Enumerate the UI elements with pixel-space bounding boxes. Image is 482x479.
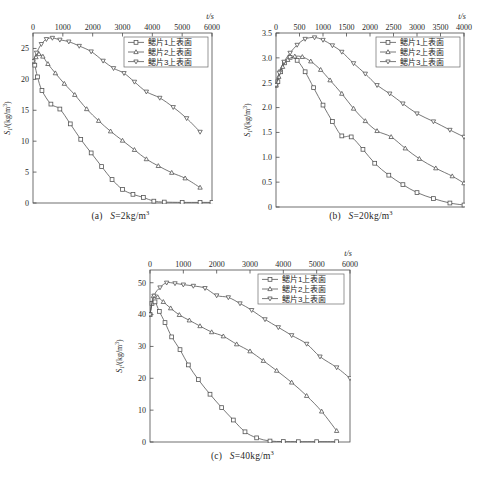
y-tick-label: 25 bbox=[21, 44, 29, 53]
x-tick-label: 3000 bbox=[242, 260, 258, 269]
y-tick-label: 10 bbox=[138, 406, 146, 415]
series-marker bbox=[450, 174, 454, 178]
y-tick-label: 1.0 bbox=[262, 153, 272, 162]
series-marker bbox=[281, 440, 285, 444]
y-axis-title-unit-end: ) bbox=[243, 103, 252, 106]
x-tick-label: 6000 bbox=[204, 23, 220, 32]
y-tick-label: 1.5 bbox=[262, 128, 272, 137]
legend-label: 鳃片2上表面 bbox=[400, 47, 444, 57]
x-tick-label: 0 bbox=[31, 23, 35, 32]
series-marker bbox=[448, 201, 452, 205]
series-marker bbox=[50, 36, 54, 40]
series-marker bbox=[187, 318, 191, 322]
series-marker bbox=[67, 40, 71, 44]
series-marker bbox=[303, 37, 307, 41]
x-tick-label: 5000 bbox=[309, 260, 325, 269]
y-tick-label: 2.0 bbox=[262, 103, 272, 112]
series-line bbox=[33, 62, 212, 202]
series-marker bbox=[231, 418, 235, 422]
series-2 bbox=[148, 294, 339, 433]
legend-label: 鳃片1上表面 bbox=[400, 37, 444, 47]
series-marker bbox=[157, 310, 161, 314]
series-marker bbox=[401, 102, 405, 106]
legend-sample-marker bbox=[134, 41, 138, 45]
series-marker bbox=[214, 294, 218, 298]
series-marker bbox=[434, 166, 438, 170]
y-axis-title: S1/(kg/m3) bbox=[114, 339, 125, 373]
series-marker bbox=[144, 157, 148, 161]
series-marker bbox=[243, 430, 247, 434]
series-marker bbox=[183, 176, 187, 180]
series-marker bbox=[303, 70, 307, 74]
x-tick-label: 0 bbox=[148, 260, 152, 269]
series-marker bbox=[171, 106, 175, 110]
curves-group bbox=[148, 281, 352, 443]
series-marker bbox=[210, 200, 214, 204]
chart-a-caption-prefix: (a) bbox=[91, 211, 102, 221]
chart-b-caption-prefix: (b) bbox=[329, 211, 341, 221]
legend-sample-marker bbox=[268, 278, 272, 282]
x-tick-label: 1000 bbox=[175, 260, 191, 269]
series-marker bbox=[186, 363, 190, 367]
x-tick-label: 4000 bbox=[456, 23, 472, 32]
legend-label: 鳃片3上表面 bbox=[148, 57, 192, 67]
series-line bbox=[150, 301, 337, 441]
series-marker bbox=[321, 38, 325, 42]
series-marker bbox=[120, 138, 124, 142]
legend-label: 鳃片3上表面 bbox=[282, 294, 326, 304]
y-tick-label: 50 bbox=[138, 279, 146, 288]
series-marker bbox=[234, 342, 238, 346]
series-marker bbox=[387, 173, 391, 177]
series-marker bbox=[248, 349, 252, 353]
chart-a-caption: (a) S=2kg/m3 bbox=[0, 209, 241, 221]
series-marker bbox=[122, 72, 126, 76]
legend-label: 鳃片1上表面 bbox=[148, 37, 192, 47]
legend: 鳃片1上表面鳃片2上表面鳃片3上表面 bbox=[376, 37, 460, 67]
legend-sample-marker bbox=[386, 50, 390, 54]
x-tick-label: 1000 bbox=[315, 23, 331, 32]
legend: 鳃片1上表面鳃片2上表面鳃片3上表面 bbox=[258, 274, 344, 304]
x-tick-label: 0 bbox=[274, 23, 278, 32]
series-marker bbox=[388, 92, 392, 96]
series-marker bbox=[330, 44, 334, 48]
x-tick-label: 4000 bbox=[144, 23, 160, 32]
y-tick-label: 0 bbox=[25, 199, 29, 208]
y-tick-label: 30 bbox=[138, 342, 146, 351]
series-marker bbox=[295, 58, 299, 62]
series-marker bbox=[340, 134, 344, 138]
chart-panel-c: 0100020003000400050006000t/s01020304050S… bbox=[110, 236, 375, 479]
series-marker bbox=[334, 366, 338, 370]
series-marker bbox=[33, 63, 37, 67]
y-tick-label: 3.0 bbox=[262, 54, 272, 63]
series-marker bbox=[462, 181, 466, 185]
series-1 bbox=[148, 300, 338, 444]
series-marker bbox=[198, 324, 202, 328]
series-marker bbox=[198, 200, 202, 204]
series-marker bbox=[156, 164, 160, 168]
series-marker bbox=[331, 120, 335, 124]
x-axis-title: t/s bbox=[344, 249, 352, 258]
y-axis-title-unit: /(kg/m bbox=[115, 344, 124, 366]
y-tick-label: 0.5 bbox=[262, 178, 272, 187]
y-tick-label: 0 bbox=[142, 438, 146, 447]
series-marker bbox=[178, 348, 182, 352]
x-tick-label: 3000 bbox=[115, 23, 131, 32]
series-marker bbox=[203, 287, 207, 291]
series-marker bbox=[296, 440, 300, 444]
y-tick-label: 40 bbox=[138, 310, 146, 319]
series-marker bbox=[415, 112, 419, 116]
chart-b-caption-eq: =20kg/m bbox=[354, 211, 390, 221]
x-axis-title: t/s bbox=[206, 12, 214, 21]
x-tick-label: 5000 bbox=[174, 23, 190, 32]
series-marker bbox=[375, 129, 379, 133]
legend-label: 鳃片3上表面 bbox=[400, 57, 444, 67]
series-marker bbox=[180, 200, 184, 204]
series-marker bbox=[36, 75, 40, 79]
series-marker bbox=[110, 178, 114, 182]
series-marker bbox=[153, 300, 157, 304]
series-marker bbox=[255, 436, 259, 440]
legend-sample-marker bbox=[268, 297, 272, 301]
series-marker bbox=[401, 183, 405, 187]
series-1 bbox=[31, 60, 214, 204]
x-tick-label: 2000 bbox=[362, 23, 378, 32]
